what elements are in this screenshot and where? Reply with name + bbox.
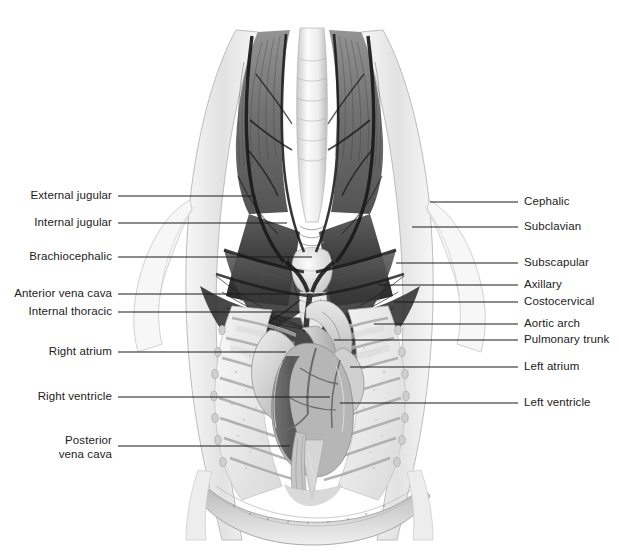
label-left-atrium: Left atrium xyxy=(524,360,579,374)
label-anterior-vena-cava: Anterior vena cava xyxy=(0,287,112,301)
label-axillary: Axillary xyxy=(524,278,562,292)
label-costocervical: Costocervical xyxy=(524,295,594,309)
label-external-jugular: External jugular xyxy=(0,189,112,203)
label-line-2: vena cava xyxy=(0,447,112,461)
label-right-ventricle: Right ventricle xyxy=(0,390,112,404)
label-subclavian: Subclavian xyxy=(524,220,581,234)
figure-canvas: External jugularInternal jugularBrachioc… xyxy=(0,0,619,554)
label-brachiocephalic: Brachiocephalic xyxy=(0,250,112,264)
anatomical-illustration xyxy=(0,0,619,554)
label-pulmonary-trunk: Pulmonary trunk xyxy=(524,333,609,347)
label-left-ventricle: Left ventricle xyxy=(524,396,591,410)
label-right-atrium: Right atrium xyxy=(0,345,112,359)
label-cephalic: Cephalic xyxy=(524,195,570,209)
label-internal-thoracic: Internal thoracic xyxy=(0,305,112,319)
label-line-1: Posterior xyxy=(0,434,112,448)
label-aortic-arch: Aortic arch xyxy=(524,317,580,331)
label-internal-jugular: Internal jugular xyxy=(0,216,112,230)
label-posterior-vena-cava: Posteriorvena cava xyxy=(0,434,112,461)
label-subscapular: Subscapular xyxy=(524,256,589,270)
